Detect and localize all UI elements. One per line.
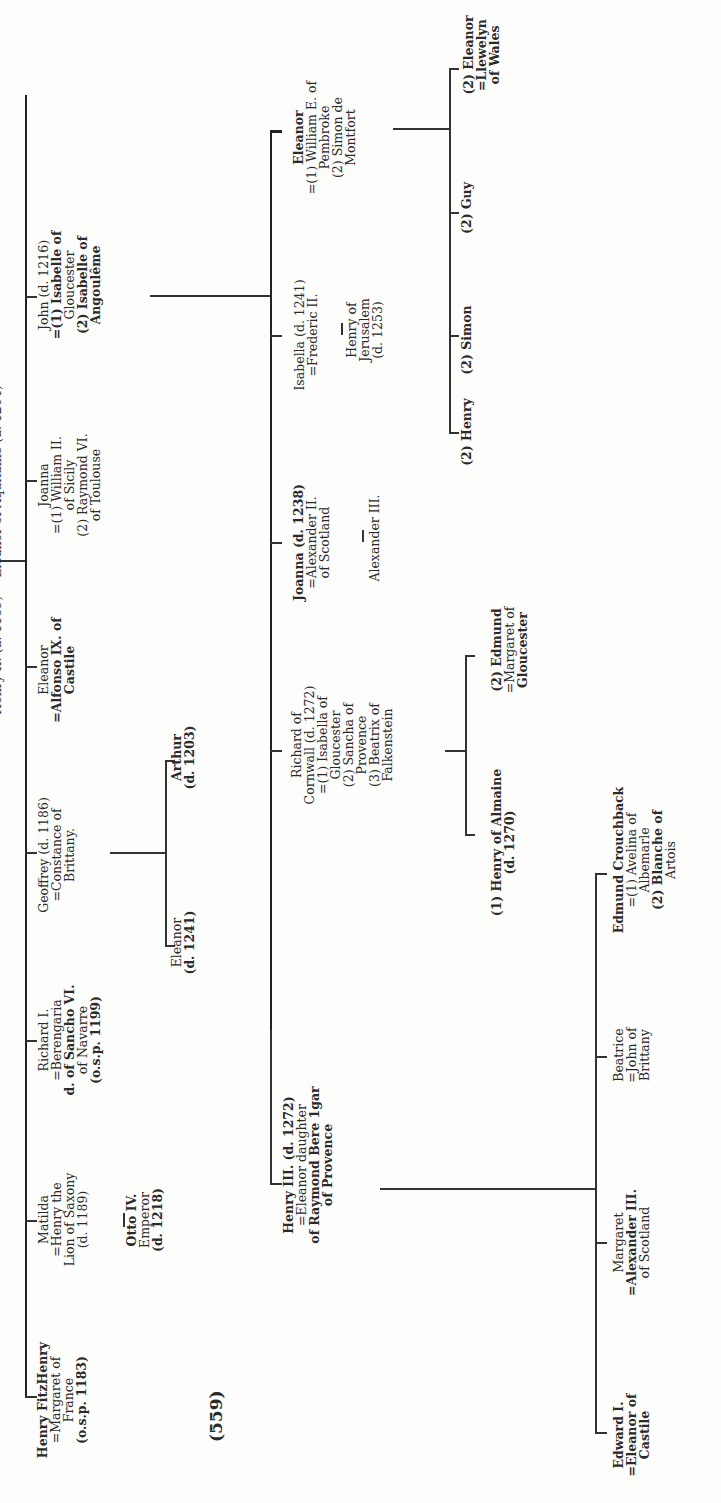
person-edmund-crouchback: Edmund Crouchback =(1) Avelina of Albema… bbox=[612, 785, 677, 935]
montfort-tick-guy bbox=[449, 212, 459, 214]
person-eleanor-d1241: Eleanor (d. 1241) bbox=[170, 900, 196, 985]
person-richard-cornwall: Richard of Cornwall (d. 1272) =(1) Isabe… bbox=[290, 670, 394, 820]
person-joanna-sicily: Joanna =(1) William II. of Sicily (2) Ra… bbox=[37, 400, 102, 570]
person-henry-of-almaine: (1) Henry of Almaine (d. 1270) bbox=[490, 750, 516, 935]
person-arthur: Arthur (d. 1203) bbox=[170, 715, 196, 800]
person-matilda: Matilda =Henry the Lion of Saxony (d. 11… bbox=[37, 1117, 89, 1322]
gen3-tick-margaret bbox=[595, 1242, 607, 1244]
person-edward-i: Edward I. =Eleanor of Castile bbox=[612, 1370, 651, 1500]
gen2-trunk bbox=[270, 130, 272, 1030]
page-number: (559) bbox=[206, 1390, 226, 1442]
gen1-trunk bbox=[25, 95, 27, 1397]
person-guy-montfort: (2) Guy bbox=[460, 173, 473, 243]
gen2-tick-isabella bbox=[270, 335, 282, 337]
person-joanna-scotland: Joanna (d. 1238) =Alexander II. of Scotl… bbox=[292, 465, 331, 620]
person-henry-of-jerusalem: Henry of Jerusalem (d. 1253) bbox=[345, 280, 384, 380]
person-otto-iv: Otto IV. Emperor (d. 1218) bbox=[125, 1170, 164, 1270]
person-eleanor-llewelyn: (2) Eleanor =Llewelyn of Wales bbox=[462, 0, 501, 110]
person-simon-montfort: (2) Simon bbox=[460, 300, 473, 380]
person-beatrice: Beatrice =John of Brittany bbox=[612, 1000, 651, 1110]
isabella-child-link bbox=[341, 323, 343, 335]
gen2-tick-richard bbox=[270, 750, 282, 752]
gen2-tick-joanna bbox=[270, 542, 282, 544]
person-eleanor-pembroke: Eleanor =(1) William E. of Pembroke (2) … bbox=[292, 50, 357, 225]
geoffrey-child-bar bbox=[165, 760, 167, 946]
person-henry-fitzhenry: Henry FitzHenry =Margaret of France (o.s… bbox=[36, 1300, 88, 1500]
henry-iii-child-link bbox=[380, 1188, 595, 1190]
montfort-tick-eleanor bbox=[449, 68, 459, 70]
montfort-child-bar bbox=[449, 68, 451, 433]
montfort-tick-simon bbox=[449, 335, 459, 337]
geoffrey-child-link bbox=[110, 852, 165, 854]
person-john: John (d. 1216) =(1) Isabelle of Gloucest… bbox=[37, 210, 102, 360]
gen3-trunk bbox=[595, 873, 597, 1433]
person-alexander-iii-child: Alexander III. bbox=[368, 468, 381, 608]
person-geoffrey: Geoffrey (d. 1186) =Constance of Brittan… bbox=[37, 760, 76, 950]
richard-tick-edmund bbox=[465, 655, 475, 657]
richard-tick-henry bbox=[465, 834, 475, 836]
joanna-child-link bbox=[362, 530, 364, 542]
person-isabella: Isabella (d. 1241) =Frederic II. bbox=[293, 260, 319, 410]
person-margaret: Margaret =Alexander III. of Scotland bbox=[612, 1165, 651, 1320]
gen2-trunk-ext bbox=[270, 1030, 272, 1184]
gen2-tick-eleanor bbox=[270, 130, 282, 133]
person-henry-montfort: (2) Henry bbox=[460, 392, 473, 472]
person-eleanor-castile: Eleanor =Alfonso IX. of Castile bbox=[37, 580, 76, 760]
john-child-link bbox=[150, 295, 270, 297]
header-parents: Henry II. (d. 1189) = Eleanor of Aquitai… bbox=[0, 60, 3, 1040]
person-richard-i: Richard I. =Berengaria d. of Sancho VI. … bbox=[37, 955, 102, 1125]
montfort-child-link bbox=[393, 128, 449, 130]
gen3-tick-edward bbox=[595, 1432, 607, 1434]
person-henry-iii: Henry III. (d. 1272) =Eleanor daughter o… bbox=[282, 1065, 334, 1265]
montfort-tick-henry bbox=[449, 432, 459, 434]
richard-child-link bbox=[445, 750, 465, 752]
gen3-tick-beatrice bbox=[595, 1056, 607, 1058]
gen3-tick-edmund bbox=[595, 873, 607, 875]
person-edmund-gloucester: (2) Edmund =Margaret of Gloucester bbox=[490, 580, 529, 720]
richard-child-bar bbox=[465, 655, 467, 835]
